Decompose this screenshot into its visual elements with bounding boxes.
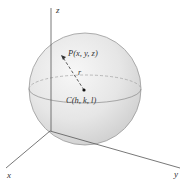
y-axis-label: y (173, 169, 178, 179)
center-c-label: C(h, k, l) (66, 95, 96, 105)
x-axis-label: x (6, 170, 11, 180)
sphere-diagram: z x y P(x, y, z) r C(h, k, l) (0, 0, 184, 182)
point-p-label: P(x, y, z) (67, 48, 98, 58)
x-axis (6, 131, 50, 168)
z-axis-label: z (55, 5, 60, 15)
center-point (82, 88, 85, 91)
